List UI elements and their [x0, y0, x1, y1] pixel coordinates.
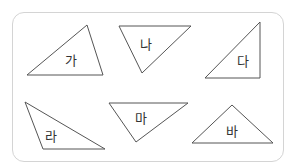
triangle-da: [205, 22, 260, 78]
triangle-label-ra: 라: [45, 126, 57, 145]
triangle-label-na: 나: [140, 34, 152, 53]
triangle-label-ma: 마: [135, 108, 147, 127]
triangle-label-da: 다: [237, 51, 249, 70]
triangle-label-ba: 바: [226, 121, 238, 140]
triangle-label-ga: 가: [65, 50, 77, 69]
triangle-na: [119, 26, 191, 73]
triangle-ra: [25, 102, 105, 149]
triangle-ma: [109, 103, 188, 142]
